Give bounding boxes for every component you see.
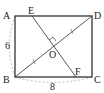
- geometry-diagram: A E D B C F O 6 8: [0, 0, 104, 93]
- label-d: D: [94, 10, 101, 21]
- label-bc-length: 8: [50, 81, 55, 92]
- segment-ef: [32, 16, 76, 77]
- label-ab-length: 6: [5, 40, 10, 51]
- label-a: A: [3, 10, 11, 21]
- label-e: E: [28, 5, 34, 16]
- label-b: B: [3, 74, 10, 85]
- label-o: O: [49, 49, 56, 60]
- label-c: C: [94, 74, 101, 85]
- dimension-arc-ab: [10, 16, 16, 77]
- label-f: F: [75, 66, 81, 77]
